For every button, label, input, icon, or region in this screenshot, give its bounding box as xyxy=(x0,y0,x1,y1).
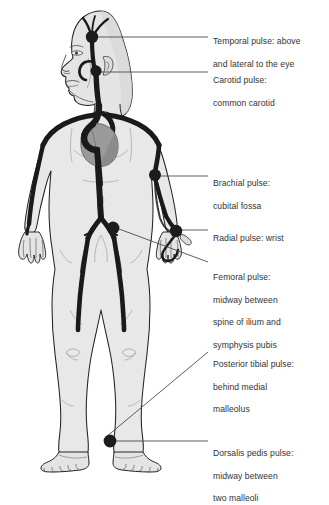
pulse-dot-temporal[interactable] xyxy=(86,31,98,43)
label-femoral-line1: Femoral pulse: xyxy=(213,272,271,282)
eye-pupil xyxy=(75,52,78,55)
label-brachial-pulse: Brachial pulse: cubital fossa xyxy=(213,167,325,212)
label-brachial-line2: cubital fossa xyxy=(213,201,261,211)
label-carotid-line1: Carotid pulse: xyxy=(213,75,267,85)
label-dorsalis-pedis-pulse: Dorsalis pedis pulse: midway between two… xyxy=(213,437,325,505)
left-hand-outline xyxy=(19,232,46,263)
label-dorsalis-pedis-line3: two malleoli xyxy=(213,493,259,503)
pulse-dot-radial[interactable] xyxy=(170,225,182,237)
pulse-dot-dorsalis-pedis[interactable] xyxy=(104,435,117,448)
pulse-dot-femoral[interactable] xyxy=(107,222,120,235)
label-carotid-line2: common carotid xyxy=(213,98,275,108)
label-radial-line1: Radial pulse: wrist xyxy=(213,233,284,243)
label-posterior-tibial-pulse: Posterior tibial pulse: behind medial ma… xyxy=(213,348,325,416)
label-posterior-tibial-line2: behind medial xyxy=(213,382,267,392)
label-posterior-tibial-line1: Posterior tibial pulse: xyxy=(213,359,294,369)
label-femoral-line3: spine of ilium and xyxy=(213,317,281,327)
label-femoral-pulse: Femoral pulse: midway between spine of i… xyxy=(213,261,325,351)
label-brachial-line1: Brachial pulse: xyxy=(213,178,270,188)
label-temporal-line1: Temporal pulse: above xyxy=(213,36,301,46)
label-radial-pulse: Radial pulse: wrist xyxy=(213,222,325,245)
label-posterior-tibial-line3: malleolus xyxy=(213,404,250,414)
aorta-over-heart xyxy=(97,150,100,184)
right-foot-outline xyxy=(113,452,161,472)
label-dorsalis-pedis-line2: midway between xyxy=(213,471,278,481)
label-dorsalis-pedis-line1: Dorsalis pedis pulse: xyxy=(213,448,293,458)
label-femoral-line2: midway between xyxy=(213,295,278,305)
pulse-dot-carotid[interactable] xyxy=(90,65,101,76)
pulse-dot-brachial[interactable] xyxy=(149,169,161,181)
thumb-outline xyxy=(180,234,191,245)
left-foot-outline xyxy=(41,452,89,472)
human-figure-body xyxy=(19,11,192,472)
label-carotid-pulse: Carotid pulse: common carotid xyxy=(213,64,325,109)
left-radial-artery xyxy=(27,224,29,234)
